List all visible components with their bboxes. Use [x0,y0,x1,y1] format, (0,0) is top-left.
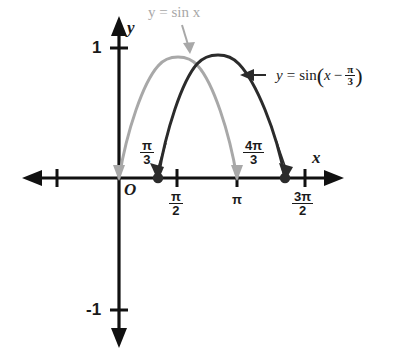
x-mark-label-pi-over-3: π 3 [140,139,154,167]
numerator: π [169,190,183,203]
numerator: π [140,139,154,152]
x-tick-label-3pi-over-2: 3π 2 [292,190,313,218]
sin-function: sin [299,67,317,84]
numerator: 4π [243,139,264,152]
open-paren: ( [317,66,324,86]
numerator: 3π [292,190,313,203]
denominator: 3 [140,152,154,166]
close-paren: ) [355,66,362,86]
denominator: 2 [292,203,313,217]
curve-label-sine-text: y = sin x [148,4,200,21]
denominator: 2 [169,203,183,217]
coordinate-plane-figure [0,0,412,360]
curve-label-sine: y = sin x [148,4,200,21]
curve-label-shifted: y = sin ( x − π 3 ) [276,64,362,87]
sine-label-pointer [182,25,195,54]
x-axis-label: x [312,148,321,168]
minus-sign: − [334,67,342,84]
denominator: 3 [243,152,264,166]
x-tick-label-pi: π [232,192,242,207]
var-y: y [276,67,283,84]
y-tick-label-neg1: -1 [86,300,101,320]
origin-label: O [124,180,136,200]
y-tick-label-1: 1 [92,38,101,58]
var-x: x [324,67,331,84]
point-4pi-over-3 [280,173,290,183]
point-pi-over-3 [153,173,163,183]
sine-curve [119,57,237,178]
phase-shift-fraction: π 3 [345,64,355,87]
numerator: π [345,64,355,75]
y-axis-label: y [127,18,135,38]
x-axis [22,170,344,186]
x-tick-label-pi-over-2: π 2 [169,190,183,218]
x-mark-label-4pi-over-3: 4π 3 [243,139,264,167]
shifted-curve-endpoint-markers [150,163,293,183]
equals-sign: = [287,67,295,84]
denominator: 3 [345,75,355,87]
